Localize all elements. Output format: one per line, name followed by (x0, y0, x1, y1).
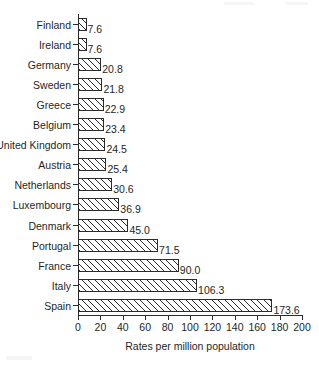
bar-row: Denmark45.0 (78, 215, 302, 237)
bar-row: Sweden21.8 (78, 74, 302, 96)
bar: 7.6 (78, 38, 87, 51)
bar: 90.0 (78, 259, 179, 272)
category-label: Luxembourg (0, 194, 78, 216)
x-axis-tick (302, 315, 303, 320)
bar-row: Italy106.3 (78, 275, 302, 297)
category-label: Denmark (0, 215, 78, 237)
category-label: Belgium (0, 114, 78, 136)
bar-row: United Kingdom24.5 (78, 134, 302, 156)
bar: 45.0 (78, 219, 128, 232)
x-axis-tick (100, 315, 101, 320)
bar: 23.4 (78, 118, 104, 131)
category-label: France (0, 255, 78, 277)
x-axis-tick (168, 315, 169, 320)
bar-row: Finland7.6 (78, 14, 302, 36)
bar-row: Ireland7.6 (78, 34, 302, 56)
bar-row: Luxembourg36.9 (78, 194, 302, 216)
x-axis-tick (212, 315, 213, 320)
bar-row: Netherlands30.6 (78, 174, 302, 196)
bar-row: Spain173.6 (78, 295, 302, 317)
x-axis-tick (145, 315, 146, 320)
bar: 21.8 (78, 78, 102, 91)
category-label: Germany (0, 54, 78, 76)
bar-chart: Finland7.6Ireland7.6Germany20.8Sweden21.… (0, 0, 319, 366)
bar: 30.6 (78, 178, 112, 191)
bar-row: France90.0 (78, 255, 302, 277)
scan-artifact-top-right (286, 2, 308, 5)
x-axis-tick (257, 315, 258, 320)
category-label: Finland (0, 14, 78, 36)
plot-area: Finland7.6Ireland7.6Germany20.8Sweden21.… (78, 14, 302, 314)
bar: 24.5 (78, 138, 105, 151)
bar: 22.9 (78, 98, 104, 111)
category-label: United Kingdom (0, 134, 78, 156)
category-label: Austria (0, 154, 78, 176)
bar-row: Belgium23.4 (78, 114, 302, 136)
bar: 173.6 (78, 299, 272, 312)
bar: 25.4 (78, 158, 106, 171)
bar: 106.3 (78, 279, 197, 292)
bar-row: Portugal71.5 (78, 235, 302, 257)
bar-value-label: 173.6 (273, 302, 299, 319)
category-label: Netherlands (0, 174, 78, 196)
x-axis-tick (280, 315, 281, 320)
bar: 36.9 (78, 198, 119, 211)
bar: 71.5 (78, 239, 158, 252)
bar-row: Germany20.8 (78, 54, 302, 76)
x-axis-tick (235, 315, 236, 320)
x-axis-title: Rates per million population (78, 340, 302, 352)
bar-row: Austria25.4 (78, 154, 302, 176)
category-label: Italy (0, 275, 78, 297)
x-axis-tick (78, 315, 79, 320)
category-label: Portugal (0, 235, 78, 257)
category-label: Spain (0, 295, 78, 317)
x-axis-tick (123, 315, 124, 320)
category-label: Ireland (0, 34, 78, 56)
category-label: Sweden (0, 74, 78, 96)
bar: 7.6 (78, 18, 87, 31)
x-axis-tick-label: 200 (282, 321, 319, 333)
bar-row: Greece22.9 (78, 94, 302, 116)
category-label: Greece (0, 94, 78, 116)
x-axis-tick (190, 315, 191, 320)
scan-artifact-top (224, 2, 254, 5)
bar: 20.8 (78, 58, 101, 71)
scan-artifact-bottom-left (6, 356, 32, 360)
